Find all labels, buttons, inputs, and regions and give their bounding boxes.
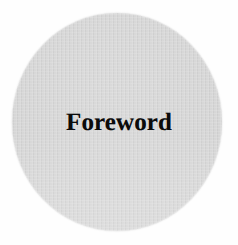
- page-canvas: Foreword: [0, 0, 238, 245]
- page-title: Foreword: [0, 109, 238, 137]
